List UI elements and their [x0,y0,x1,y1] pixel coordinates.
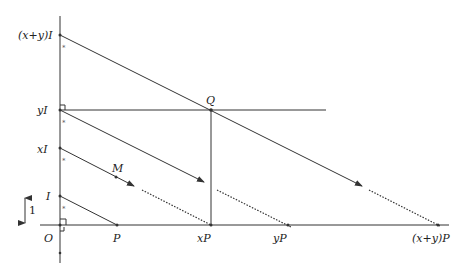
point-O [59,224,62,227]
label-unit: 1 [29,204,36,217]
point-xyP [437,224,440,227]
point-xP [210,224,213,227]
segment-xyI-dotted [369,190,440,226]
segment-yI-dotted [217,190,291,227]
label-yI: yI [36,104,48,117]
angle-mark-I: * [62,205,66,213]
point-Q [209,108,213,112]
segment-yI-arrow [60,110,204,182]
label-Q: Q [206,94,215,107]
axis-bottom-dot [59,252,62,255]
point-I [59,195,62,198]
point-xyI [59,34,62,37]
point-xI [59,147,62,150]
label-xI: xI [37,143,48,156]
point-yI [59,109,62,112]
label-O: O [44,232,53,245]
angle-mark-yI: * [62,119,66,127]
point-P [116,224,119,227]
angle-mark-xI: * [62,157,66,165]
label-P: P [112,232,121,245]
label-xP: xP [197,232,211,245]
point-yP [287,224,290,227]
right-angle-mark-origin-below [60,227,64,231]
geometry-diagram: * * * * (x+y)I yI xI I O P xP yP (x+y)P … [0,0,469,279]
angle-mark-xyI: * [62,44,66,52]
segment-I-P [60,196,117,225]
label-yP: yP [272,232,287,245]
segment-xI-dotted [142,190,211,225]
label-M: M [111,162,124,175]
label-xyP: (x+y)P [412,232,450,245]
label-xyI: (x+y)I [18,29,53,42]
label-I: I [45,190,51,203]
point-M [115,176,118,179]
